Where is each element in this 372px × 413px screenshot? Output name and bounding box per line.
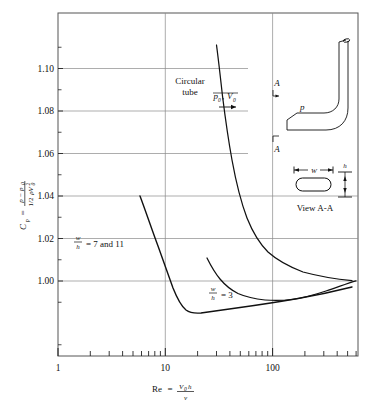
yaxis-tick-labels: 1.10 1.08 1.06 1.04 1.02 1.00 xyxy=(37,64,54,286)
ytick-label: 1.02 xyxy=(37,234,54,244)
yaxis-title-numerator: p − p xyxy=(17,187,25,204)
xtick-label: 1 xyxy=(56,363,61,373)
xaxis-title-nu: ν xyxy=(184,394,188,402)
xtick-label: 100 xyxy=(265,363,280,373)
plot-frame xyxy=(58,13,358,356)
yaxis-title-half: 1/2 xyxy=(27,197,35,206)
xaxis-title-h: h xyxy=(188,383,192,391)
circular-tube-label-line1: Circular xyxy=(175,76,205,86)
yaxis-title-cp: C xyxy=(18,223,28,230)
probe-pressure-tap-label: p xyxy=(299,102,305,112)
section-label-a-top: A xyxy=(273,78,280,88)
wh-3-value: = 3 xyxy=(221,290,233,300)
ytick-label: 1.08 xyxy=(37,106,54,116)
xaxis-title-equals: = xyxy=(167,384,172,394)
circular-tube-label-line2: tube xyxy=(182,87,198,97)
wh3-fraction-h: h xyxy=(211,294,215,302)
xtick-label: 10 xyxy=(161,363,171,373)
ytick-label: 1.00 xyxy=(37,276,54,286)
xaxis-title: Re = V 0 h ν xyxy=(152,383,194,402)
chart-svg: 1.10 1.08 1.06 1.04 1.02 1.00 xyxy=(0,0,372,413)
yaxis-title-v-sub: 0 xyxy=(30,183,36,186)
yaxis-title-exponent: 2 xyxy=(25,183,31,186)
ytick-label: 1.04 xyxy=(37,191,54,201)
yaxis-title-equals: = xyxy=(18,210,28,215)
xaxis-tick-labels: 1 10 100 xyxy=(56,363,280,373)
wh-fraction-w: w xyxy=(76,234,81,242)
view-aa-caption: View A-A xyxy=(297,203,334,213)
yaxis-title-rho-v: ρV xyxy=(27,186,35,195)
freestream-comma: , xyxy=(222,91,224,101)
yaxis-title: C p = p − p 0 1/2 ρV 0 2 xyxy=(17,181,36,230)
ytick-label: 1.06 xyxy=(37,149,54,159)
h-dimension-label: h xyxy=(343,162,347,170)
wh-fraction-h: h xyxy=(76,243,80,251)
section-label-a-bottom: A xyxy=(273,144,280,154)
wh3-fraction-w: w xyxy=(211,285,216,293)
freestream-v0-sub: 0 xyxy=(233,97,236,103)
xaxis-title-re: Re xyxy=(152,384,162,394)
wh-7-11-value: = 7 and 11 xyxy=(86,239,124,249)
xaxis-title-v-sub: 0 xyxy=(184,386,187,392)
figure-root: 1.10 1.08 1.06 1.04 1.02 1.00 xyxy=(0,0,372,413)
yaxis-title-cp-sub: p xyxy=(24,219,30,223)
ytick-label: 1.10 xyxy=(37,64,54,74)
freestream-p0-sub: 0 xyxy=(218,97,221,103)
